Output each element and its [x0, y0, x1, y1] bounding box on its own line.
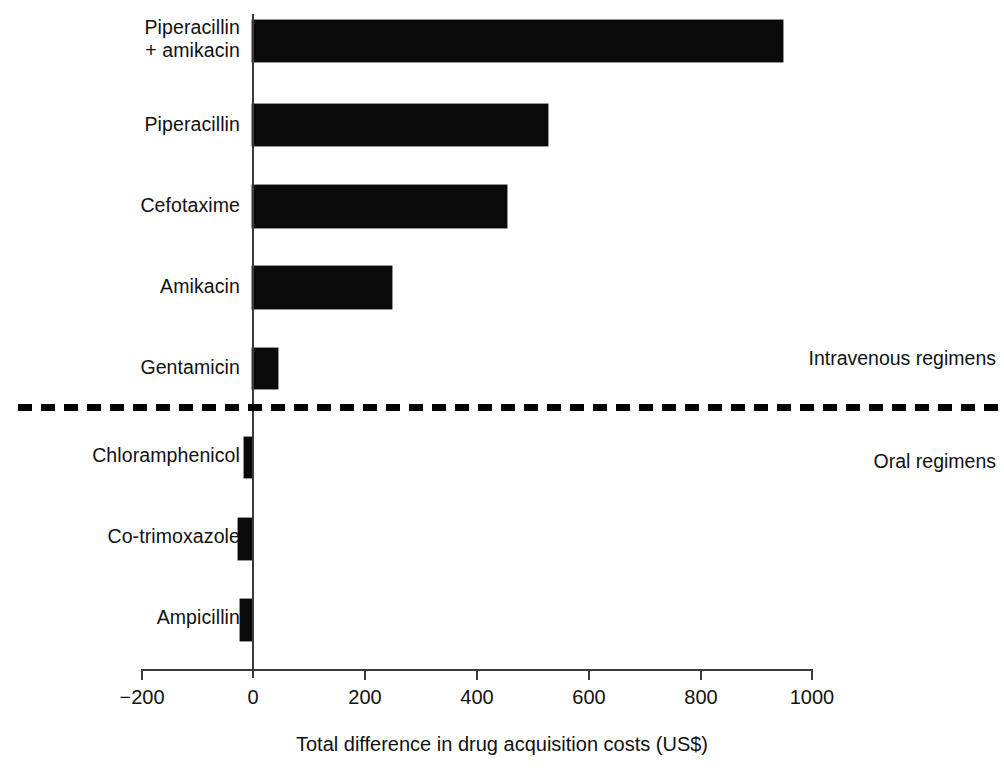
bar-piperacillin	[252, 104, 548, 146]
bar-co-trimoxazole	[238, 518, 252, 560]
category-label-piperacillin: Piperacillin	[145, 113, 241, 136]
x-tick-200	[364, 669, 366, 680]
bar-piperacillin-amikacin	[252, 20, 783, 62]
x-tick-label-800: 800	[656, 686, 746, 709]
x-tick-label-400: 400	[432, 686, 522, 709]
category-label-gentamicin: Gentamicin	[140, 356, 240, 379]
category-label-piperacillin-amikacin: Piperacillin + amikacin	[145, 16, 241, 62]
category-label-chloramphenicol: Chloramphenicol	[92, 444, 240, 467]
x-tick-label-1000: 1000	[767, 686, 857, 709]
bar-gentamicin	[252, 348, 278, 389]
x-tick-600	[588, 669, 590, 680]
x-tick-400	[476, 669, 478, 680]
x-tick-1000	[811, 669, 813, 680]
category-label-ampicillin: Ampicillin	[157, 606, 240, 629]
x-tick-label-600: 600	[544, 686, 634, 709]
annotation-intravenous-regimens: Intravenous regimens	[808, 347, 996, 370]
x-tick-label--200: −200	[97, 686, 187, 709]
regimen-divider-dashed-line	[18, 404, 1004, 411]
bar-amikacin	[252, 266, 392, 309]
chart-figure: Piperacillin + amikacin Piperacillin Cef…	[0, 0, 1004, 781]
zero-axis-line	[252, 14, 254, 678]
x-tick-label-200: 200	[320, 686, 410, 709]
x-tick-0	[252, 658, 254, 670]
category-label-cefotaxime: Cefotaxime	[140, 194, 240, 217]
category-label-co-trimoxazole: Co-trimoxazole	[107, 525, 240, 548]
x-tick-label-0: 0	[208, 686, 298, 709]
x-axis-title: Total difference in drug acquisition cos…	[0, 733, 1004, 756]
x-tick-800	[700, 669, 702, 680]
bar-cefotaxime	[252, 185, 507, 228]
annotation-oral-regimens: Oral regimens	[874, 450, 996, 473]
category-label-amikacin: Amikacin	[160, 275, 240, 298]
x-tick--200	[141, 669, 143, 680]
bar-ampicillin	[240, 599, 252, 641]
bar-chloramphenicol	[244, 437, 252, 478]
